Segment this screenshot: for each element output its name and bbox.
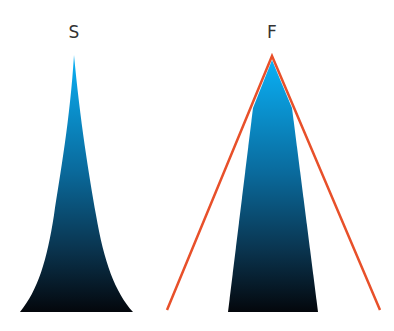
f-column-shape (228, 60, 318, 312)
diagram-canvas (0, 0, 394, 331)
s-spike-shape (20, 55, 133, 312)
